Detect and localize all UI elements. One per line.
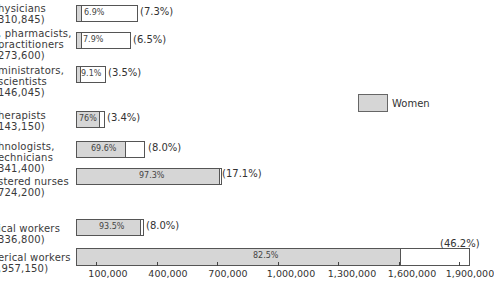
label-line: echnicians <box>0 152 55 163</box>
women-fill <box>77 6 82 21</box>
x-tick-label: 1,900,000 <box>446 268 494 279</box>
label-line: scientists <box>0 76 64 87</box>
category-label: erical workers ,957,150) <box>0 252 71 274</box>
bar-nurses: 97.3% <box>76 168 222 185</box>
label-line: ical workers <box>0 223 60 234</box>
label-line: herapists <box>0 110 46 121</box>
bar-administrators: 9.1% <box>76 66 106 83</box>
share-pct: (8.0%) <box>148 142 181 153</box>
women-fill <box>77 33 82 48</box>
tick-mark <box>338 262 339 266</box>
category-label: , pharmacists, practitioners 273,600) <box>0 28 72 61</box>
bar-pharmacists: 7.9% <box>76 32 131 49</box>
label-line: 341,400) <box>0 163 55 174</box>
women-pct: 6.9% <box>84 8 104 17</box>
x-tick-label: 1,600,000 <box>388 268 436 279</box>
label-line: 724,200) <box>0 187 69 198</box>
tick-mark <box>217 262 218 266</box>
label-line: 336,800) <box>0 234 60 245</box>
x-tick-label: 700,000 <box>208 268 247 279</box>
bar-practical-workers: 93.5% <box>76 219 144 236</box>
label-line: 273,600) <box>0 50 72 61</box>
category-label: stered nurses 724,200) <box>0 176 69 198</box>
label-line: practitioners <box>0 39 72 50</box>
category-label: hysicians 310,845) <box>0 3 46 25</box>
label-line: erical workers <box>0 252 71 263</box>
tick-mark <box>96 262 97 266</box>
legend: Women <box>358 94 430 112</box>
label-line: 310,845) <box>0 14 46 25</box>
label-line: hysicians <box>0 3 46 14</box>
label-line: hnologists, <box>0 141 55 152</box>
label-line: 146,045) <box>0 87 64 98</box>
share-pct: (6.5%) <box>133 34 166 45</box>
share-pct: (3.5%) <box>108 67 141 78</box>
bar-therapists: 76% <box>76 111 105 128</box>
bar-technologists: 69.6% <box>76 141 145 158</box>
label-line: , pharmacists, <box>0 28 72 39</box>
tick-mark <box>459 262 460 266</box>
women-pct: 82.5% <box>253 251 278 260</box>
share-pct: (8.0%) <box>146 220 179 231</box>
share-pct: (46.2%) <box>440 238 480 249</box>
category-label: herapists 143,150) <box>0 110 46 132</box>
women-pct: 93.5% <box>99 222 124 231</box>
label-line: ,957,150) <box>0 263 71 274</box>
women-pct: 9.1% <box>81 69 101 78</box>
tick-mark <box>157 262 158 266</box>
women-pct: 7.9% <box>83 35 103 44</box>
label-line: stered nurses <box>0 176 69 187</box>
category-label: ministrators, scientists 146,045) <box>0 65 64 98</box>
tick-mark <box>399 262 400 266</box>
x-tick-label: 1,000,000 <box>267 268 315 279</box>
label-line: ministrators, <box>0 65 64 76</box>
bar-clerical-workers: 82.5% <box>76 248 470 266</box>
women-pct: 69.6% <box>91 144 116 153</box>
women-fill <box>77 249 401 265</box>
legend-label: Women <box>392 98 430 109</box>
share-pct: (17.1%) <box>222 168 262 179</box>
x-tick-label: 100,000 <box>88 268 127 279</box>
tick-mark <box>278 262 279 266</box>
share-pct: (3.4%) <box>107 112 140 123</box>
bar-physicians: 6.9% <box>76 5 138 22</box>
x-tick-label: 400,000 <box>148 268 187 279</box>
share-pct: (7.3%) <box>140 6 173 17</box>
x-tick-label: 1,300,000 <box>328 268 376 279</box>
label-line: 143,150) <box>0 121 46 132</box>
women-pct: 76% <box>79 114 97 123</box>
category-label: hnologists, echnicians 341,400) <box>0 141 55 174</box>
category-label: ical workers 336,800) <box>0 223 60 245</box>
legend-swatch <box>358 94 388 112</box>
women-pct: 97.3% <box>139 171 164 180</box>
